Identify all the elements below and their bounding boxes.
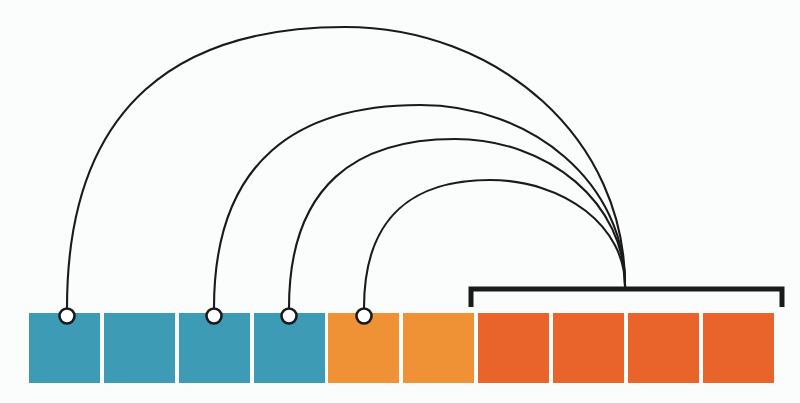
diagram-canvas [0,0,800,403]
cell-2-teal[interactable] [104,313,175,383]
attachment-circle-marker-cell-5[interactable] [357,309,372,324]
cell-6-light-orange[interactable] [403,313,474,383]
cell-7-dark-orange[interactable] [478,313,549,383]
cell-10-dark-orange[interactable] [703,313,774,383]
arc-diagram-figure [0,0,800,403]
attachment-circle-marker-cell-3[interactable] [207,309,222,324]
cell-9-dark-orange[interactable] [628,313,699,383]
attachment-circle-marker-cell-1[interactable] [60,309,75,324]
attachment-circle-marker-cell-4[interactable] [282,309,297,324]
cell-8-dark-orange[interactable] [553,313,624,383]
